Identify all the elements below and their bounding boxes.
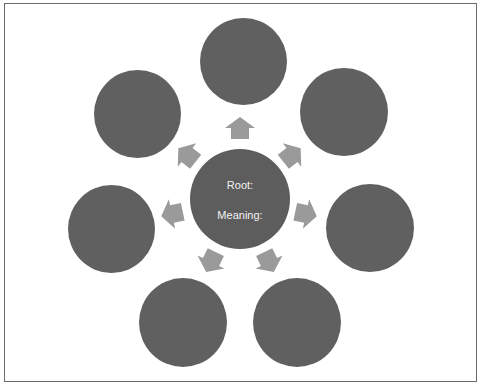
arrow-down-left-icon — [193, 246, 230, 279]
arrow-right-icon — [292, 197, 320, 231]
root-label: Root: — [190, 179, 290, 191]
center-node: Root: Meaning: — [190, 149, 290, 249]
arrow-up-icon — [225, 117, 255, 139]
meaning-label: Meaning: — [190, 209, 290, 221]
arrow-left-icon — [158, 197, 186, 231]
arrow-down-right-icon — [251, 246, 288, 279]
